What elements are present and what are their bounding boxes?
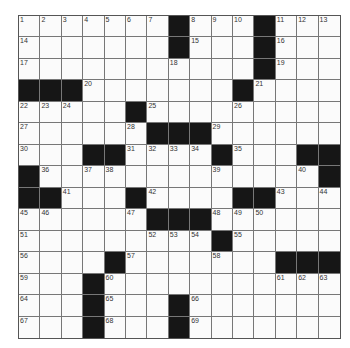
- grid-cell[interactable]: [254, 295, 275, 316]
- grid-cell[interactable]: [147, 166, 168, 187]
- grid-cell[interactable]: 28: [126, 123, 147, 144]
- grid-cell[interactable]: 41: [62, 188, 83, 209]
- grid-cell[interactable]: 42: [147, 188, 168, 209]
- grid-cell[interactable]: 11: [276, 16, 297, 37]
- grid-cell[interactable]: [254, 317, 275, 338]
- grid-cell[interactable]: [105, 102, 126, 123]
- grid-cell[interactable]: [254, 102, 275, 123]
- grid-cell[interactable]: [62, 123, 83, 144]
- grid-cell[interactable]: [212, 317, 233, 338]
- grid-cell[interactable]: [297, 317, 318, 338]
- grid-cell[interactable]: [126, 317, 147, 338]
- grid-cell[interactable]: [83, 59, 104, 80]
- grid-cell[interactable]: [319, 37, 340, 58]
- grid-cell[interactable]: [319, 295, 340, 316]
- grid-cell[interactable]: [276, 166, 297, 187]
- grid-cell[interactable]: 69: [190, 317, 211, 338]
- grid-cell[interactable]: 25: [147, 102, 168, 123]
- grid-cell[interactable]: [297, 231, 318, 252]
- grid-cell[interactable]: [83, 231, 104, 252]
- grid-cell[interactable]: [105, 37, 126, 58]
- grid-cell[interactable]: [62, 295, 83, 316]
- grid-cell[interactable]: [40, 295, 61, 316]
- grid-cell[interactable]: [40, 252, 61, 273]
- grid-cell[interactable]: [62, 37, 83, 58]
- grid-cell[interactable]: 45: [19, 209, 40, 230]
- grid-cell[interactable]: 62: [297, 274, 318, 295]
- grid-cell[interactable]: [62, 145, 83, 166]
- grid-cell[interactable]: [169, 252, 190, 273]
- grid-cell[interactable]: 54: [190, 231, 211, 252]
- grid-cell[interactable]: [126, 274, 147, 295]
- grid-cell[interactable]: 50: [254, 209, 275, 230]
- grid-cell[interactable]: [212, 59, 233, 80]
- grid-cell[interactable]: [105, 59, 126, 80]
- grid-cell[interactable]: [126, 80, 147, 101]
- grid-cell[interactable]: [233, 252, 254, 273]
- grid-cell[interactable]: [147, 252, 168, 273]
- grid-cell[interactable]: [190, 166, 211, 187]
- grid-cell[interactable]: [319, 59, 340, 80]
- grid-cell[interactable]: 57: [126, 252, 147, 273]
- grid-cell[interactable]: 61: [276, 274, 297, 295]
- grid-cell[interactable]: 12: [297, 16, 318, 37]
- grid-cell[interactable]: [233, 295, 254, 316]
- grid-cell[interactable]: [147, 295, 168, 316]
- grid-cell[interactable]: [190, 59, 211, 80]
- grid-cell[interactable]: [126, 231, 147, 252]
- grid-cell[interactable]: [212, 80, 233, 101]
- grid-cell[interactable]: [40, 317, 61, 338]
- grid-cell[interactable]: [147, 37, 168, 58]
- grid-cell[interactable]: 5: [105, 16, 126, 37]
- grid-cell[interactable]: [126, 295, 147, 316]
- grid-cell[interactable]: [233, 274, 254, 295]
- grid-cell[interactable]: [319, 317, 340, 338]
- grid-cell[interactable]: [233, 317, 254, 338]
- grid-cell[interactable]: 35: [233, 145, 254, 166]
- grid-cell[interactable]: 19: [276, 59, 297, 80]
- grid-cell[interactable]: [297, 37, 318, 58]
- grid-cell[interactable]: 22: [19, 102, 40, 123]
- grid-cell[interactable]: [254, 166, 275, 187]
- grid-cell[interactable]: [212, 102, 233, 123]
- grid-cell[interactable]: 26: [233, 102, 254, 123]
- grid-cell[interactable]: [319, 123, 340, 144]
- grid-cell[interactable]: 27: [19, 123, 40, 144]
- grid-cell[interactable]: 13: [319, 16, 340, 37]
- grid-cell[interactable]: [62, 231, 83, 252]
- grid-cell[interactable]: 64: [19, 295, 40, 316]
- grid-cell[interactable]: [319, 231, 340, 252]
- grid-cell[interactable]: 29: [212, 123, 233, 144]
- grid-cell[interactable]: 53: [169, 231, 190, 252]
- grid-cell[interactable]: [254, 274, 275, 295]
- grid-cell[interactable]: [190, 274, 211, 295]
- grid-cell[interactable]: 66: [190, 295, 211, 316]
- grid-cell[interactable]: [40, 123, 61, 144]
- grid-cell[interactable]: 60: [105, 274, 126, 295]
- grid-cell[interactable]: [233, 59, 254, 80]
- grid-cell[interactable]: [212, 274, 233, 295]
- grid-cell[interactable]: [297, 123, 318, 144]
- grid-cell[interactable]: 7: [147, 16, 168, 37]
- grid-cell[interactable]: [83, 188, 104, 209]
- grid-cell[interactable]: [190, 252, 211, 273]
- grid-cell[interactable]: 1: [19, 16, 40, 37]
- grid-cell[interactable]: 30: [19, 145, 40, 166]
- grid-cell[interactable]: [297, 59, 318, 80]
- grid-cell[interactable]: [105, 231, 126, 252]
- grid-cell[interactable]: [62, 274, 83, 295]
- grid-cell[interactable]: 48: [212, 209, 233, 230]
- grid-cell[interactable]: [276, 295, 297, 316]
- grid-cell[interactable]: 55: [233, 231, 254, 252]
- grid-cell[interactable]: 16: [276, 37, 297, 58]
- grid-cell[interactable]: [83, 37, 104, 58]
- grid-cell[interactable]: [126, 37, 147, 58]
- grid-cell[interactable]: 14: [19, 37, 40, 58]
- grid-cell[interactable]: 6: [126, 16, 147, 37]
- grid-cell[interactable]: 3: [62, 16, 83, 37]
- grid-cell[interactable]: [297, 188, 318, 209]
- grid-cell[interactable]: 20: [83, 80, 104, 101]
- grid-cell[interactable]: 9: [212, 16, 233, 37]
- grid-cell[interactable]: [62, 59, 83, 80]
- grid-cell[interactable]: [212, 295, 233, 316]
